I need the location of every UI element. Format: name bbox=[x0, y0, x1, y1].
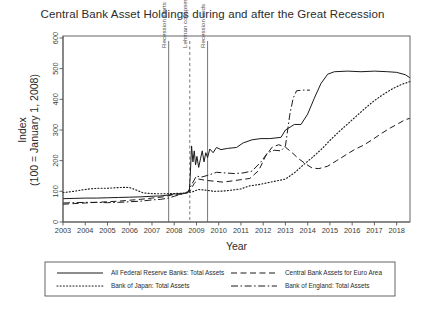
legend-box bbox=[45, 262, 395, 296]
annotation-label: Lehman collapses bbox=[181, 0, 188, 48]
x-tick-label: 2003 bbox=[55, 226, 71, 235]
y-tick-label: 200 bbox=[51, 154, 60, 166]
legend-label: Bank of Japan: Total Assets bbox=[111, 282, 189, 290]
x-axis-label: Year bbox=[226, 240, 248, 252]
series-line bbox=[63, 90, 310, 203]
x-tick-label: 2014 bbox=[299, 226, 315, 235]
legend-label: Bank of England: Total Assets bbox=[285, 282, 369, 290]
y-tick-label: 0 bbox=[51, 220, 60, 224]
annotation-label: Recession starts bbox=[160, 2, 167, 48]
y-axis-label-line1: Index bbox=[16, 116, 28, 142]
y-tick-label: 400 bbox=[51, 93, 60, 105]
plot-frame bbox=[63, 36, 410, 222]
series-line bbox=[63, 118, 410, 204]
x-tick-label: 2007 bbox=[144, 226, 160, 235]
x-tick-label: 2006 bbox=[122, 226, 138, 235]
x-tick-label: 2013 bbox=[277, 226, 293, 235]
x-tick-label: 2017 bbox=[366, 226, 382, 235]
x-tick-label: 2015 bbox=[322, 226, 338, 235]
series-line bbox=[63, 82, 410, 194]
annotation-label: Recession ends bbox=[199, 4, 206, 48]
x-tick-label: 2008 bbox=[166, 226, 182, 235]
legend-label: Central Bank Assets for Euro Area bbox=[285, 269, 382, 276]
chart-container: Central Bank Asset Holdings during and a… bbox=[0, 0, 425, 310]
x-tick-label: 2010 bbox=[210, 226, 226, 235]
y-tick-label: 100 bbox=[51, 185, 60, 197]
x-tick-label: 2004 bbox=[77, 226, 93, 235]
x-tick-label: 2011 bbox=[233, 226, 249, 235]
x-tick-label: 2009 bbox=[188, 226, 204, 235]
x-tick-label: 2016 bbox=[344, 226, 360, 235]
legend-label: All Federal Reserve Banks: Total Assets bbox=[111, 269, 224, 276]
x-tick-label: 2018 bbox=[388, 226, 404, 235]
y-tick-label: 500 bbox=[51, 62, 60, 74]
x-tick-label: 2012 bbox=[255, 226, 271, 235]
y-axis-label-line2: (100 = January 1, 2008) bbox=[28, 74, 40, 186]
y-tick-label: 300 bbox=[51, 124, 60, 136]
y-tick-label: 600 bbox=[51, 32, 60, 44]
chart-canvas: 0100200300400500600200320042005200620072… bbox=[0, 0, 425, 310]
series-line bbox=[63, 71, 410, 199]
x-tick-label: 2005 bbox=[99, 226, 115, 235]
